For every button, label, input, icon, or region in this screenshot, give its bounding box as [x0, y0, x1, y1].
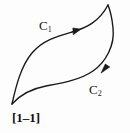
- curve-label-c2-base: C: [89, 82, 98, 97]
- curve-label-c1: C1: [39, 19, 52, 32]
- arrowhead-c2-icon: [101, 64, 110, 74]
- curve-label-c1-base: C: [39, 18, 48, 33]
- figure-caption: [1–1]: [12, 110, 40, 126]
- curve-label-c1-subscript: 1: [48, 25, 52, 34]
- curve-label-c2: C2: [89, 83, 102, 96]
- figure-container: C1 C2 [1–1]: [0, 0, 130, 133]
- arrowhead-c1-icon: [72, 26, 82, 34]
- curve-label-c2-subscript: 2: [98, 89, 102, 98]
